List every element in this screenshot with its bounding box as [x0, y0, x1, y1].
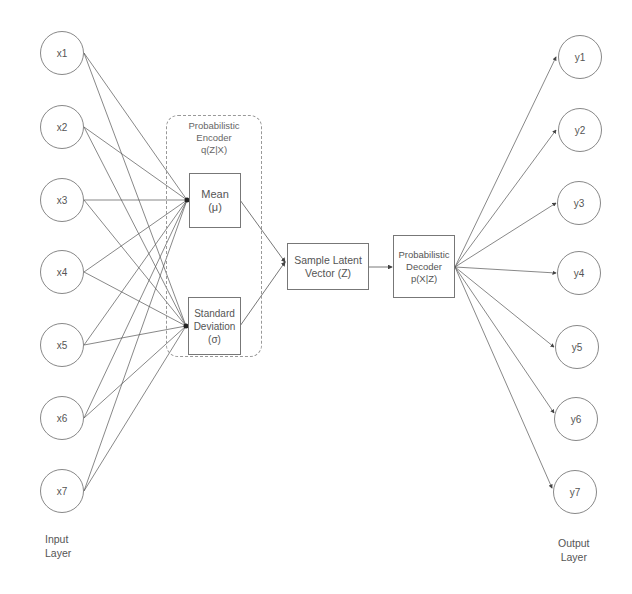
decoder-box: Probabilistic Decoder p(X|Z): [393, 235, 455, 298]
output-node-y2: y2: [558, 108, 602, 152]
decoder-label: Probabilistic Decoder p(X|Z): [398, 249, 449, 285]
node-label: x5: [57, 340, 68, 351]
node-label: y2: [575, 125, 586, 136]
output-node-y3: y3: [557, 181, 601, 225]
latent-label: Sample Latent Vector (Z): [294, 254, 362, 280]
input-node-x5: x5: [40, 323, 84, 367]
latent-vector-box: Sample Latent Vector (Z): [287, 243, 369, 290]
output-layer-label: Output Layer: [558, 536, 590, 564]
input-node-x4: x4: [40, 250, 84, 294]
std-label: Standard Deviation (σ): [194, 307, 236, 346]
encoder-title: Probabilistic Encoder q(Z|X): [166, 120, 262, 156]
node-label: x4: [57, 267, 68, 278]
connections-layer: [0, 0, 632, 594]
input-node-x2: x2: [40, 105, 84, 149]
output-node-y4: y4: [557, 251, 601, 295]
output-node-y7: y7: [553, 470, 597, 514]
output-node-y1: y1: [558, 35, 602, 79]
input-node-x7: x7: [40, 469, 84, 513]
mean-box: Mean (μ): [189, 173, 241, 228]
node-label: x2: [57, 122, 68, 133]
node-label: y1: [575, 52, 586, 63]
node-label: x7: [57, 486, 68, 497]
input-layer-label: Input Layer: [45, 532, 71, 560]
output-node-y6: y6: [554, 397, 598, 441]
std-box: Standard Deviation (σ): [188, 297, 241, 355]
input-node-x6: x6: [40, 396, 84, 440]
input-node-x3: x3: [40, 178, 84, 222]
node-label: y6: [571, 414, 582, 425]
node-label: x1: [57, 48, 68, 59]
decoder-to-output-edges: [455, 57, 556, 488]
node-label: y7: [570, 487, 581, 498]
output-node-y5: y5: [555, 325, 599, 369]
input-node-x1: x1: [40, 31, 84, 75]
node-label: y5: [572, 342, 583, 353]
node-label: y4: [574, 268, 585, 279]
node-label: y3: [574, 198, 585, 209]
mean-label: Mean (μ): [201, 188, 229, 214]
node-label: x3: [57, 195, 68, 206]
node-label: x6: [57, 413, 68, 424]
